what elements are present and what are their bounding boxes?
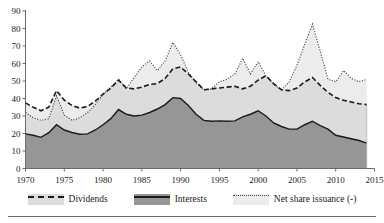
x-tick-label: 1995 — [210, 175, 229, 185]
chart-area-fills — [26, 24, 367, 168]
y-tick-label: 30 — [12, 111, 22, 121]
y-tick-label: 90 — [12, 6, 22, 16]
legend-item-dividends: Dividends — [28, 194, 108, 205]
x-tick-label: 2015 — [366, 175, 384, 185]
x-tick-label: 1980 — [94, 175, 113, 185]
x-tick-label: 1970 — [17, 175, 36, 185]
legend-label-dividends: Dividends — [69, 194, 108, 204]
y-tick-label: 80 — [12, 24, 22, 34]
x-tick-label: 1985 — [133, 175, 152, 185]
x-axis-tick-labels: 1970197519801985199019952000200520102015 — [17, 175, 384, 185]
legend-label-net-share-issuance: Net share issuance (-) — [274, 194, 357, 204]
y-tick-label: 70 — [12, 41, 22, 51]
y-axis-tick-labels: 0102030405060708090 — [12, 6, 22, 174]
x-tick-label: 2010 — [327, 175, 346, 185]
x-tick-label: 1990 — [172, 175, 191, 185]
legend-label-interests: Interests — [175, 194, 207, 204]
footer-divider — [8, 216, 376, 217]
legend-swatch-interests — [134, 194, 170, 205]
x-tick-label: 2000 — [249, 175, 268, 185]
legend-swatch-line-dividends — [28, 196, 64, 198]
chart-figure: 0102030405060708090 19701975198019851990… — [0, 0, 384, 223]
legend-swatch-dividends — [28, 194, 64, 205]
y-tick-label: 20 — [12, 129, 22, 139]
legend-swatch-line-net-share-issuance — [233, 195, 269, 196]
chart-legend: Dividends Interests Net share issuance (… — [0, 188, 384, 210]
legend-swatch-net-share-issuance — [233, 194, 269, 205]
y-tick-label: 10 — [12, 146, 22, 156]
x-tick-label: 2005 — [288, 175, 307, 185]
x-tick-label: 1975 — [55, 175, 74, 185]
y-tick-label: 60 — [12, 59, 22, 69]
y-tick-label: 0 — [16, 164, 21, 174]
legend-swatch-line-interests — [134, 196, 170, 198]
legend-item-net-share-issuance: Net share issuance (-) — [233, 194, 357, 205]
legend-item-interests: Interests — [134, 194, 207, 205]
y-tick-label: 50 — [12, 76, 22, 86]
y-tick-label: 40 — [12, 94, 22, 104]
